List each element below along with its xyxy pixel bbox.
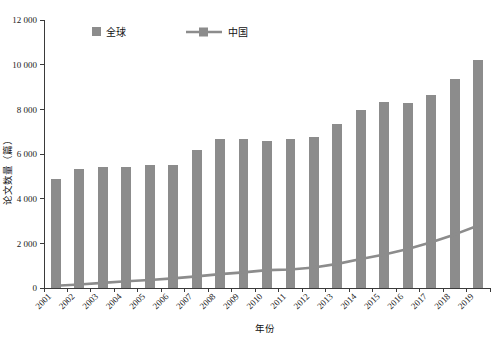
x-tick-label: 2013 [315,291,335,311]
bar [450,79,460,288]
x-tick-label: 2001 [33,291,53,311]
x-tick-label: 2003 [80,291,100,311]
x-tick-label: 2005 [127,291,147,311]
bar [168,165,178,288]
bar [215,139,225,288]
y-tick-label: 10 000 [12,60,37,70]
bar-line-chart: 02 0004 0006 0008 00010 00012 000 200120… [0,0,501,337]
y-tick-label: 12 000 [12,15,37,25]
x-tick-label: 2015 [362,291,382,311]
legend-label-global: 全球 [106,26,126,38]
bar [51,179,61,288]
x-tick-label: 2010 [245,291,265,311]
legend-marker-china [199,28,208,37]
x-tick-label: 2011 [268,291,288,311]
x-tick-label: 2017 [409,291,429,311]
bar [262,141,272,288]
x-tick-label: 2018 [432,291,452,311]
bar [74,169,84,288]
chart-container: 02 0004 0006 0008 00010 00012 000 200120… [0,0,501,337]
x-tick-label: 2002 [57,291,77,311]
bar [309,137,319,288]
bar [121,167,131,288]
x-tick-label: 2004 [104,291,124,311]
y-tick-label: 2 000 [17,239,38,249]
bar [379,102,389,288]
legend-swatch-global [92,27,101,36]
x-tick-label: 2012 [292,291,312,311]
y-axis-title: 论文数量（篇） [2,135,13,205]
bar [356,110,366,288]
bar [145,165,155,288]
bar [426,95,436,288]
y-tick-label: 6 000 [17,149,38,159]
x-tick-label: 2006 [151,291,171,311]
x-tick-label: 2007 [174,291,194,311]
y-tick-label: 0 [33,283,38,293]
x-tick-label: 2016 [385,291,405,311]
x-axis: 2001200220032004200520062007200820092010… [33,288,490,311]
bar [403,103,413,288]
x-tick-label: 2019 [456,291,476,311]
x-tick-label: 2009 [221,291,241,311]
x-tick-label: 2014 [339,291,359,311]
y-tick-label: 8 000 [17,105,38,115]
bar [239,139,249,288]
x-axis-title: 年份 [255,323,275,334]
x-tick-label: 2008 [198,291,218,311]
bar [473,60,483,288]
legend-label-china: 中国 [228,26,248,38]
bar [98,167,108,288]
bar-series-global [51,60,483,288]
y-axis: 02 0004 0006 0008 00010 00012 000 [12,15,44,293]
bar [286,139,296,288]
chart-legend: 全球中国 [92,26,248,38]
y-tick-label: 4 000 [17,194,38,204]
bar [192,150,202,288]
